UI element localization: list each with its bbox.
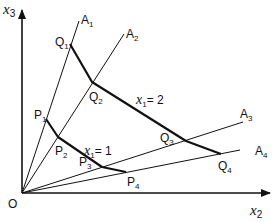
ray-label-a3: A3 xyxy=(240,107,253,123)
point-label-p1: P1 xyxy=(34,108,47,124)
ray-label-a4: A4 xyxy=(255,144,268,160)
point-label-q2: Q2 xyxy=(89,90,103,106)
ray-label-a2: A2 xyxy=(126,27,139,43)
horizontal-axis-label: x2 xyxy=(249,202,263,220)
vertical-axis-label: x3 xyxy=(2,1,16,19)
ray-label-a1: A1 xyxy=(81,13,94,29)
origin-label: O xyxy=(8,197,17,211)
isoquant-label-x1-1: x1= 1 xyxy=(83,143,112,160)
point-label-p2: P2 xyxy=(55,144,68,160)
point-label-q4: Q4 xyxy=(218,159,232,175)
isoquant-label-x1-2: x1= 2 xyxy=(135,92,164,109)
isoquant-diagram: x3 x2 O A1 A2 A3 A4 Q1 Q2 Q3 Q4 P1 P2 P3… xyxy=(0,0,274,222)
point-label-p4: P4 xyxy=(127,175,140,191)
diagram-canvas: x3 x2 O A1 A2 A3 A4 Q1 Q2 Q3 Q4 P1 P2 P3… xyxy=(0,0,274,222)
point-label-q1: Q1 xyxy=(55,35,69,51)
